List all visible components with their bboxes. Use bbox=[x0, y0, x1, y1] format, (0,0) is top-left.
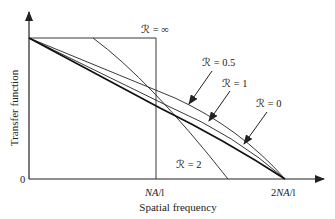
label-r-1: ℛ = 1 bbox=[222, 78, 247, 89]
arrow-r-0.5 bbox=[189, 71, 212, 104]
arrow-r-0 bbox=[244, 112, 267, 144]
x-axis-label: Spatial frequency bbox=[139, 201, 217, 213]
label-r-0.5: ℛ = 0.5 bbox=[202, 57, 235, 68]
x-tick-2na: 2NA/l bbox=[271, 187, 296, 198]
y-axis-label: Transfer function bbox=[8, 69, 20, 146]
arrow-r-1 bbox=[209, 91, 230, 121]
x-tick-2na-italic: NA bbox=[275, 187, 290, 198]
transfer-function-diagram: ℛ = ∞ ℛ = 0.5 ℛ = 1 ℛ = 0 ℛ = 2 0 NA/l 2… bbox=[0, 0, 335, 219]
label-r-infinity: ℛ = ∞ bbox=[141, 24, 169, 35]
x-tick-na-suffix: /l bbox=[158, 187, 164, 198]
curve-r-0 bbox=[29, 38, 285, 179]
y-zero-tick: 0 bbox=[20, 174, 25, 185]
curve-r-infinity bbox=[29, 38, 156, 179]
x-tick-na: NA/l bbox=[144, 187, 164, 198]
x-tick-na-italic: NA bbox=[144, 187, 159, 198]
label-r-2: ℛ = 2 bbox=[176, 159, 201, 170]
label-r-0: ℛ = 0 bbox=[256, 98, 281, 109]
x-tick-2na-suffix: /l bbox=[290, 187, 296, 198]
